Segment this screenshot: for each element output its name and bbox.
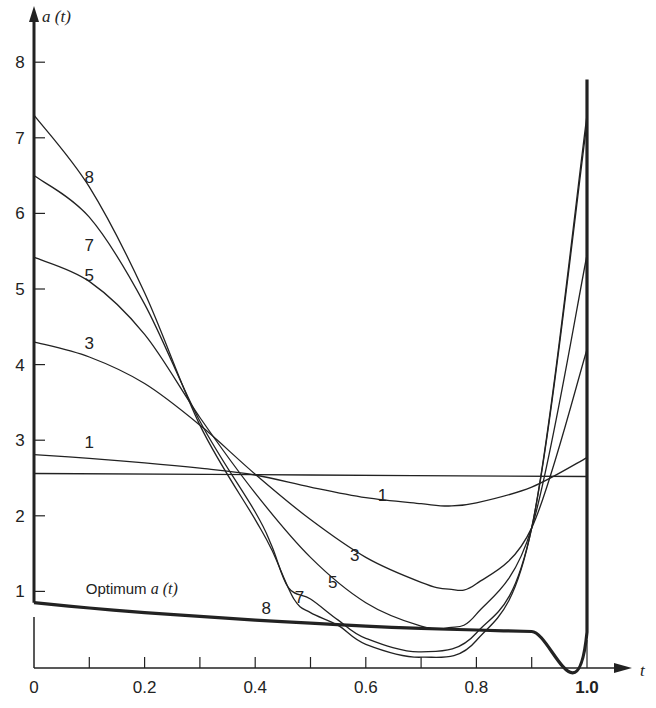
y-tick-label: 2 [15,507,24,526]
curve-label: 3 [85,334,94,353]
y-tick-label: 4 [15,356,24,375]
x-tick-label: 1.0 [575,678,599,697]
y-axis-title: a (t) [42,7,71,26]
y-tick-label: 3 [15,431,24,450]
x-tick-label: 0.4 [243,678,267,697]
x-tick-label: 0.8 [465,678,489,697]
chart: 00.20.40.60.81.012345678 8753113578Optim… [0,0,656,708]
y-tick-label: 1 [15,582,24,601]
x-axis-title: t [640,661,646,680]
curve-label: 5 [85,266,94,285]
x-tick-label: 0.2 [133,678,157,697]
y-axis-arrow-icon [29,6,39,22]
y-tick-label: 7 [15,129,24,148]
x-tick-label: 0.6 [354,678,378,697]
curve-label: 3 [350,546,359,565]
x-axis-arrow-icon [614,663,632,673]
x-tick-label: 0 [29,678,38,697]
curve-label: 8 [262,599,271,618]
y-tick-label: 5 [15,280,24,299]
curve-label: 7 [295,588,304,607]
curve-label: 7 [85,236,94,255]
curve-5 [34,255,587,629]
curve-labels: 8753113578Optimum a (t) [85,168,388,618]
curve-label: 5 [328,573,337,592]
curve-label: 1 [378,486,387,505]
curve-8 [34,115,587,657]
curve-0 [34,474,587,477]
curve-7 [34,123,587,652]
curve-label: 1 [85,433,94,452]
y-tick-label: 6 [15,204,24,223]
optimum-label: Optimum a (t) [86,580,178,598]
curve-label: 8 [85,168,94,187]
y-tick-label: 8 [15,53,24,72]
curve-3 [34,342,587,590]
curve-1 [34,455,587,506]
